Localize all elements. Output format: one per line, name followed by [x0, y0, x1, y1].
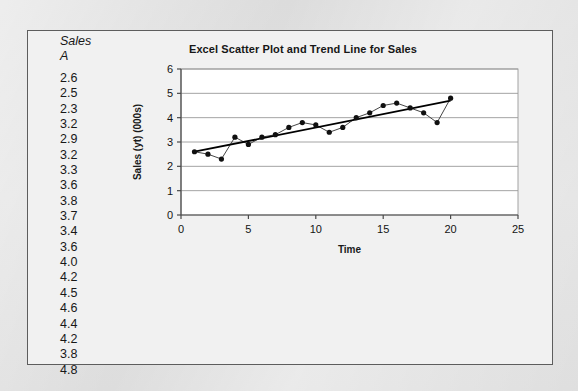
- spreadsheet-cell: 4.2: [59, 332, 121, 347]
- data-point-marker: [313, 122, 318, 127]
- data-point-marker: [381, 103, 386, 108]
- data-point-marker: [340, 125, 345, 130]
- data-point-marker: [327, 130, 332, 135]
- scatter-chart: Excel Scatter Plot and Trend Line for Sa…: [103, 37, 543, 307]
- data-point-marker: [219, 156, 224, 161]
- x-axis-title: Time: [338, 244, 362, 255]
- chart-canvas: 01234560510152025TimeSales (yt) (000s): [103, 37, 543, 307]
- data-point-marker: [232, 135, 237, 140]
- x-axis-tick-label: 25: [512, 223, 524, 235]
- data-point-marker: [421, 110, 426, 115]
- spreadsheet-cell: 3.8: [59, 347, 121, 362]
- x-axis-tick-label: 10: [310, 223, 322, 235]
- y-axis-title: Sales (yt) (000s): [132, 104, 143, 180]
- x-axis-tick-label: 15: [377, 223, 389, 235]
- y-axis-tick-label: 6: [167, 63, 173, 75]
- x-axis-tick-label: 20: [444, 223, 456, 235]
- y-axis-tick-label: 3: [167, 136, 173, 148]
- y-axis-tick-label: 4: [167, 112, 173, 124]
- y-axis-tick-label: 2: [167, 160, 173, 172]
- spreadsheet-cell: 4.8: [59, 363, 121, 378]
- x-axis-tick-label: 5: [245, 223, 251, 235]
- y-axis-tick-label: 0: [167, 209, 173, 221]
- data-point-marker: [354, 115, 359, 120]
- figure-frame: Sales A 2.62.52.33.22.93.23.33.63.83.73.…: [27, 30, 553, 365]
- data-point-marker: [246, 142, 251, 147]
- data-point-marker: [367, 110, 372, 115]
- data-point-marker: [192, 149, 197, 154]
- x-axis-tick-label: 0: [178, 223, 184, 235]
- data-point-marker: [259, 135, 264, 140]
- y-axis-tick-label: 5: [167, 87, 173, 99]
- data-point-marker: [205, 152, 210, 157]
- data-point-marker: [300, 120, 305, 125]
- data-point-marker: [286, 125, 291, 130]
- data-point-marker: [394, 100, 399, 105]
- data-point-marker: [448, 96, 453, 101]
- data-point-marker: [273, 132, 278, 137]
- spreadsheet-cell: 4.4: [59, 317, 121, 332]
- data-point-marker: [408, 105, 413, 110]
- y-axis-tick-label: 1: [167, 185, 173, 197]
- data-point-marker: [435, 120, 440, 125]
